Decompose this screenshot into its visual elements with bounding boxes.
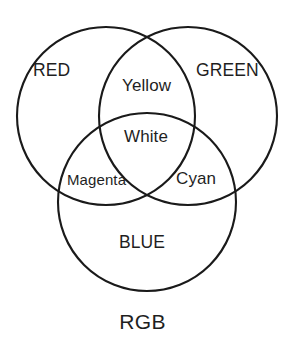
venn-label-white: White <box>124 128 168 145</box>
venn-diagram-canvas <box>0 0 285 348</box>
venn-label-cyan: Cyan <box>176 170 216 187</box>
rgb-venn-diagram-figure: RED GREEN Yellow White Magenta Cyan BLUE… <box>0 0 285 348</box>
figure-caption: RGB <box>0 310 285 334</box>
venn-label-green: GREEN <box>196 62 259 80</box>
venn-label-magenta: Magenta <box>67 172 126 187</box>
venn-label-yellow: Yellow <box>122 77 171 94</box>
venn-label-red: RED <box>33 62 70 80</box>
venn-label-blue: BLUE <box>119 234 165 252</box>
